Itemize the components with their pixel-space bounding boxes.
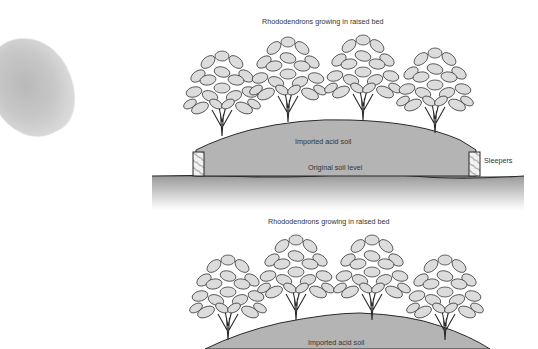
bottom-figure-title: Rhododendrons growing in raised bed bbox=[268, 217, 389, 226]
ground bbox=[152, 176, 524, 210]
imported-soil-label-bottom: Imported acid soil bbox=[308, 338, 364, 347]
top-figure-title: Rhododendrons growing in raised bed bbox=[262, 17, 383, 26]
shrub-2 bbox=[248, 37, 328, 122]
sleeper-left bbox=[193, 152, 204, 176]
shrub-3 bbox=[323, 35, 403, 120]
shrub-b3 bbox=[332, 235, 412, 320]
shrub-4 bbox=[395, 48, 475, 133]
imported-soil-label: Imported acid soil bbox=[295, 137, 351, 146]
sleeper-right bbox=[469, 152, 480, 176]
bottom-figure bbox=[188, 235, 490, 349]
original-soil-level-label: Original soil level bbox=[308, 163, 362, 172]
shrub-b1 bbox=[188, 255, 268, 340]
top-figure bbox=[152, 35, 524, 210]
raised-bed-illustration bbox=[0, 0, 538, 349]
sleepers-label: Sleepers bbox=[484, 156, 512, 165]
shrub-b2 bbox=[256, 235, 336, 320]
